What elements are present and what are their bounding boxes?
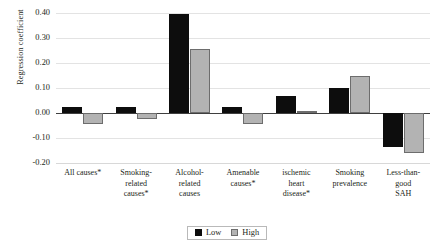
y-axis-tick-4: 0.00 (14, 108, 50, 117)
bar-low-5 (329, 88, 349, 113)
bar-high-4 (297, 111, 317, 114)
category-label-2: Alcohol-relatedcauses (163, 168, 216, 200)
y-axis-tick-0: 0.40 (14, 8, 50, 17)
plot-area (56, 13, 430, 163)
category-label-4: ischemicheartdisease* (270, 168, 323, 200)
bar-low-3 (222, 107, 242, 113)
bar-group-5 (323, 13, 376, 163)
bar-high-1 (137, 113, 157, 119)
category-label-5: Smokingprevalence (323, 168, 376, 189)
bar-low-1 (116, 107, 136, 113)
legend-label-high: High (242, 228, 259, 237)
chart-legend: Low High (187, 226, 267, 240)
y-axis-tick-5: -0.10 (14, 133, 50, 142)
x-axis-category-labels: All causes*Smoking-relatedcauses*Alcohol… (56, 168, 430, 214)
category-label-6: Less-than-goodSAH (377, 168, 430, 200)
bar-high-2 (190, 49, 210, 113)
category-label-3: Amenablecauses* (216, 168, 269, 189)
high-swatch-icon (231, 229, 238, 236)
y-axis-tick-6: -0.20 (14, 158, 50, 167)
category-label-1: Smoking-relatedcauses* (109, 168, 162, 200)
bar-low-4 (276, 96, 296, 114)
low-swatch-icon (195, 229, 202, 236)
axis-line-bottom (56, 163, 430, 164)
bar-low-0 (62, 107, 82, 113)
bar-group-0 (56, 13, 109, 163)
y-axis-tick-1: 0.30 (14, 33, 50, 42)
bar-group-6 (377, 13, 430, 163)
category-label-0: All causes* (56, 168, 109, 179)
legend-label-low: Low (206, 228, 221, 237)
bar-low-6 (383, 113, 403, 147)
bar-group-3 (216, 13, 269, 163)
y-axis-tick-2: 0.20 (14, 58, 50, 67)
bar-high-0 (83, 113, 103, 124)
bar-high-6 (404, 113, 424, 153)
bar-low-2 (169, 14, 189, 113)
bar-high-3 (243, 113, 263, 124)
bar-group-1 (109, 13, 162, 163)
bar-group-2 (163, 13, 216, 163)
regression-coefficient-bar-chart: Regression coefficient 0.400.300.200.100… (0, 0, 445, 248)
legend-item-high: High (231, 228, 259, 237)
bar-group-4 (270, 13, 323, 163)
bar-high-5 (350, 76, 370, 114)
bar-groups (56, 13, 430, 163)
y-axis-tick-3: 0.10 (14, 83, 50, 92)
legend-item-low: Low (195, 228, 221, 237)
